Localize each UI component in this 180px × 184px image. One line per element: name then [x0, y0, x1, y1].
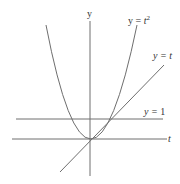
label-y-equals-t: y = t: [152, 50, 172, 61]
diagram: y t y = t2 y = t y = 1: [0, 0, 180, 184]
y-axis-label: y: [87, 8, 92, 19]
t-axis-label: t: [168, 133, 171, 144]
label-y-equals-t-squared: y = t2: [128, 14, 150, 26]
parabola-y-equals-t-squared: [46, 25, 137, 139]
label-y-equals-1: y = 1: [143, 106, 165, 117]
